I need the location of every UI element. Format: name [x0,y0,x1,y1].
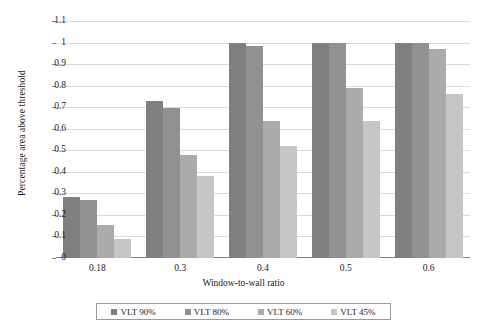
bar [180,155,197,258]
x-tick-label: 0.18 [62,263,132,273]
bar [346,88,363,258]
y-tick-label: 1 [26,38,66,48]
bar [97,225,114,258]
legend-swatch-icon [185,309,191,315]
y-tick-label: 0.9 [26,59,66,69]
bar [163,108,180,258]
plot-area [56,21,470,258]
y-tick-label: 0.5 [26,145,66,155]
legend-swatch-icon [258,309,264,315]
y-tick-label: 0.7 [26,102,66,112]
legend-label: VLT 90% [120,307,155,317]
legend-item[interactable]: VLT 80% [170,307,243,317]
bar [246,46,263,258]
bar [395,43,412,258]
legend-item[interactable]: VLT 90% [97,307,170,317]
bar [329,43,346,258]
legend-item[interactable]: VLT 60% [244,307,317,317]
x-axis-title: Window-to-wall ratio [0,278,487,288]
bar [446,94,463,258]
legend-swatch-icon [111,309,117,315]
y-tick-label: 0.8 [26,81,66,91]
bar [312,43,329,258]
legend-label: VLT 80% [194,307,229,317]
y-tick-label: 0.6 [26,124,66,134]
bar [280,146,297,258]
bar [229,43,246,258]
bar [146,101,163,258]
bar [363,121,380,258]
x-tick-label: 0.3 [145,263,215,273]
y-tick-label: 0.1 [26,231,66,241]
bar-group [304,21,387,258]
bar [412,43,429,258]
bar [114,239,131,258]
bar [429,49,446,258]
bar [63,197,80,258]
bar-group [56,21,139,258]
x-tick-label: 0.6 [394,263,464,273]
y-tick-label: 0.2 [26,210,66,220]
legend-label: VLT 60% [267,307,302,317]
bar [263,121,280,258]
legend-label: VLT 45% [340,307,375,317]
bar-chart: Percentage area above threshold 1.110.90… [0,0,487,335]
bar-group [139,21,222,258]
bar [80,200,97,258]
bar-group [387,21,470,258]
legend: VLT 90%VLT 80%VLT 60%VLT 45% [96,303,391,320]
x-tick-label: 0.5 [311,263,381,273]
y-tick-label: 1.1 [26,16,66,26]
y-tick-label: 0.4 [26,167,66,177]
x-tick-label: 0.4 [228,263,298,273]
y-tick-label: 0.3 [26,188,66,198]
bar-group [222,21,305,258]
bar [197,176,214,258]
legend-item[interactable]: VLT 45% [317,307,390,317]
legend-swatch-icon [331,309,337,315]
y-tick-label: 0 [26,253,66,263]
